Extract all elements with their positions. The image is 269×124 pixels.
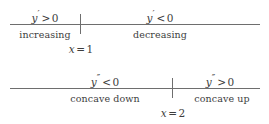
second-derivative-left-operator: <	[101, 76, 113, 88]
first-derivative-tick-mark	[80, 14, 81, 34]
second-derivative-left-behavior: concave down	[70, 94, 139, 104]
first-derivative-number-line	[10, 24, 260, 25]
second-derivative-right-operator: >	[216, 76, 228, 88]
first-derivative-left-value: 0	[52, 12, 59, 24]
first-derivative-right-behavior: decreasing	[133, 30, 187, 40]
second-critical-value: 2	[179, 107, 186, 119]
first-derivative-left-operator: >	[40, 12, 52, 24]
second-derivative-left-sign: y″<0	[91, 73, 119, 87]
first-derivative-left-sign: y′>0	[32, 9, 59, 23]
second-derivative-right-value: 0	[227, 76, 234, 88]
second-critical-operator: =	[167, 107, 179, 119]
first-derivative-right-sign: y′<0	[147, 9, 174, 23]
derivative-sign-chart-figure: y′>0 y′<0 increasing decreasing x=1 y″<0…	[0, 0, 269, 124]
first-derivative-critical-point-label: x=1	[69, 44, 93, 55]
first-derivative-left-behavior: increasing	[19, 30, 70, 40]
first-derivative-right-operator: <	[155, 12, 167, 24]
first-derivative-right-value: 0	[167, 12, 174, 24]
second-derivative-right-behavior: concave up	[194, 94, 249, 104]
second-derivative-number-line	[10, 88, 260, 89]
second-derivative-tick-mark	[172, 78, 173, 98]
first-critical-operator: =	[75, 43, 87, 55]
second-derivative-critical-point-label: x=2	[161, 108, 185, 119]
second-derivative-left-value: 0	[112, 76, 119, 88]
second-derivative-right-sign: y″>0	[206, 73, 234, 87]
first-critical-value: 1	[87, 43, 94, 55]
